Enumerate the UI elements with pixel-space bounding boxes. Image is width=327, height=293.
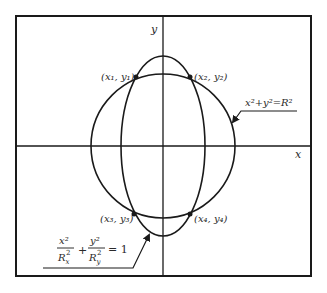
circle-equation-label: x²+y²=R² [245,97,293,108]
circle-ellipse-intersection-diagram: y x (x₁, y₁) (x₂, y₂) (x₃, y₃) (x₄, y₄) … [0,0,327,293]
ellipse-plus: + [78,244,87,257]
intersection-point-4 [188,212,193,217]
intersection-point-2 [188,75,193,80]
ellipse-equation-label: x² Rx 2 + y² Ry 2 = 1 [57,235,128,266]
ellipse-den-rx-sup: 2 [66,249,70,257]
point-label-4: (x₄, y₄) [194,213,228,224]
point-label-1: (x₁, y₁) [101,71,135,82]
point-label-3: (x₃, y₃) [100,213,134,224]
ellipse-num-x: x² [59,235,69,246]
ellipse-equals-one: = 1 [108,243,128,256]
x-axis-label: x [295,148,302,161]
ellipse-num-y: y² [89,235,100,246]
ellipse-den-ry-sup: 2 [97,249,101,257]
y-axis-label: y [150,23,158,36]
point-label-2: (x₂, y₂) [194,71,228,82]
circle-leader-arrow [233,111,297,122]
